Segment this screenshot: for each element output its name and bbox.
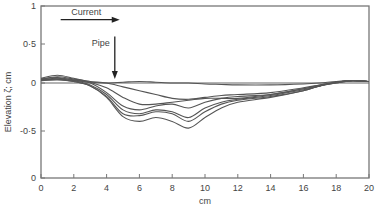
- x-tick-label: 16: [298, 183, 308, 193]
- x-tick-label: 14: [266, 183, 276, 193]
- x-tick-label: 12: [233, 183, 243, 193]
- annotations: CurrentPipe: [61, 7, 120, 79]
- y-tick-label: 0·5: [23, 39, 36, 49]
- current-arrowhead-icon: [112, 17, 120, 23]
- elevation-profile-chart: 0246810121416182010·50-0·50 CurrentPipe …: [0, 0, 377, 209]
- plot-area: 0246810121416182010·50-0·50 CurrentPipe …: [0, 0, 377, 209]
- curve-profile-7: [41, 80, 369, 128]
- pipe-label: Pipe: [92, 38, 110, 48]
- x-tick-label: 0: [38, 183, 43, 193]
- pipe-arrowhead-icon: [112, 71, 118, 79]
- x-tick-label: 8: [170, 183, 175, 193]
- x-tick-label: 18: [331, 183, 341, 193]
- curve-profile-3: [41, 75, 369, 104]
- y-tick-label: 0: [31, 173, 36, 183]
- x-tick-label: 4: [104, 183, 109, 193]
- plot-frame: [41, 6, 369, 178]
- axes: 0246810121416182010·50-0·50: [20, 1, 374, 193]
- x-axis-label: cm: [199, 196, 211, 206]
- y-tick-label: -0·5: [20, 126, 36, 136]
- x-tick-label: 20: [364, 183, 374, 193]
- y-tick-label: 0: [31, 78, 36, 88]
- y-axis-label: Elevation ζ; cm: [3, 72, 13, 133]
- x-tick-label: 6: [137, 183, 142, 193]
- x-tick-label: 2: [71, 183, 76, 193]
- x-tick-label: 10: [200, 183, 210, 193]
- y-tick-label: 1: [31, 1, 36, 11]
- current-label: Current: [71, 7, 102, 17]
- curve-profile-2: [41, 77, 369, 100]
